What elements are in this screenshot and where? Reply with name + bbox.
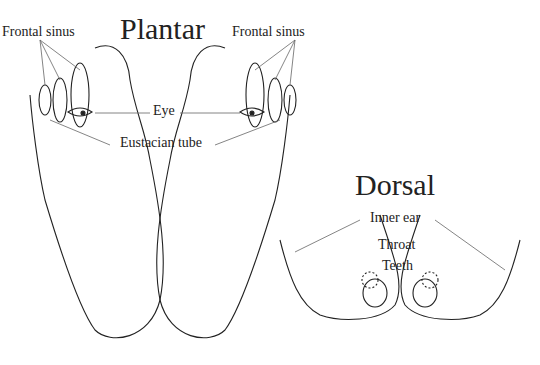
eustachian-tube-label: Eustacian tube [120,135,202,151]
throat-label: Throat [378,237,415,253]
feet-illustration [0,0,540,365]
right-plantar-foot [157,46,290,338]
teeth-label: Teeth [382,258,413,274]
plantar-title: Plantar [120,12,205,46]
frontal-sinus-left-label: Frontal sinus [2,24,75,40]
inner-ear-label: Inner ear [370,210,420,226]
eye-label: Eye [153,103,175,119]
dorsal-title: Dorsal [355,168,435,202]
frontal-sinus-right-label: Frontal sinus [232,24,305,40]
left-plantar-foot [30,46,163,338]
foot-reflexology-diagram: Frontal sinus Plantar Frontal sinus Eye … [0,0,540,365]
right-dorsal-foot [401,215,520,319]
